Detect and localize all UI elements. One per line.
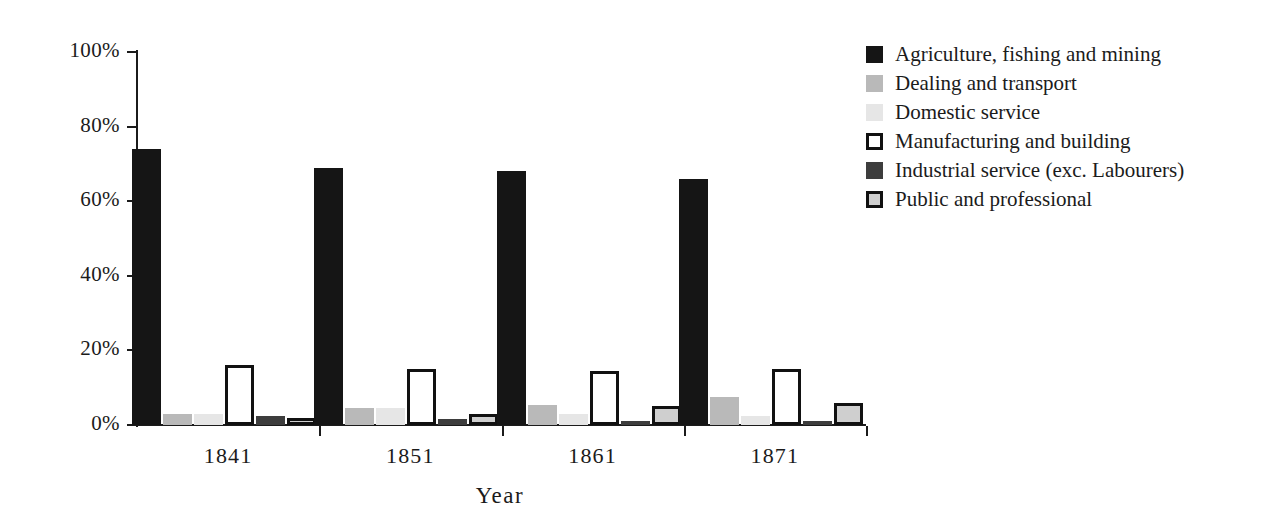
legend-swatch-icon [866, 75, 883, 92]
bar-dealing-transport [163, 414, 192, 425]
x-axis-label: 1841 [137, 443, 319, 469]
bar-domestic-service [559, 414, 588, 425]
x-tick-mark [684, 426, 686, 436]
legend-label: Agriculture, fishing and mining [895, 44, 1161, 65]
bar-dealing-transport [345, 408, 374, 425]
legend-label: Manufacturing and building [895, 131, 1131, 152]
y-tick-label: 40% [0, 264, 120, 285]
bar-domestic-service [194, 414, 223, 425]
legend-item: Domestic service [866, 98, 1256, 126]
bar-manufacturing-building [407, 369, 436, 425]
bar-public-professional [652, 406, 681, 425]
bar-agriculture [497, 171, 526, 425]
x-tick-mark [866, 426, 868, 436]
y-tick-label: 100% [0, 40, 120, 61]
legend-swatch-icon [866, 104, 883, 121]
bar-industrial-service [256, 416, 285, 425]
bar-group [497, 52, 681, 425]
y-tick-label: 20% [0, 338, 120, 359]
legend-item: Manufacturing and building [866, 127, 1256, 155]
bar-industrial-service [621, 421, 650, 425]
legend-swatch-icon [866, 191, 883, 208]
x-axis-label: 1851 [319, 443, 501, 469]
bar-public-professional [287, 418, 316, 425]
bar-group [132, 52, 316, 425]
legend-swatch-icon [866, 162, 883, 179]
bar-chart: 0%20%40%60%80%100% 1841185118611871 Year… [0, 0, 1262, 521]
bar-manufacturing-building [772, 369, 801, 425]
bar-group [314, 52, 498, 425]
bar-public-professional [469, 414, 498, 425]
legend-label: Public and professional [895, 189, 1092, 210]
bar-manufacturing-building [590, 371, 619, 425]
bar-manufacturing-building [225, 365, 254, 425]
x-tick-mark [502, 426, 504, 436]
legend-label: Dealing and transport [895, 73, 1077, 94]
x-axis-label: 1871 [684, 443, 866, 469]
chart-legend: Agriculture, fishing and miningDealing a… [866, 40, 1256, 214]
bar-agriculture [314, 168, 343, 425]
y-tick-label: 0% [0, 413, 120, 434]
y-tick-label: 80% [0, 115, 120, 136]
legend-item: Public and professional [866, 185, 1256, 213]
y-tick-label: 60% [0, 189, 120, 210]
bar-agriculture [679, 179, 708, 425]
bar-group [679, 52, 863, 425]
x-axis-label: 1861 [502, 443, 684, 469]
bar-public-professional [834, 403, 863, 425]
legend-item: Dealing and transport [866, 69, 1256, 97]
bar-dealing-transport [710, 397, 739, 425]
bar-industrial-service [803, 421, 832, 425]
legend-label: Domestic service [895, 102, 1040, 123]
x-tick-mark [319, 426, 321, 436]
bar-domestic-service [376, 408, 405, 425]
legend-item: Agriculture, fishing and mining [866, 40, 1256, 68]
bar-dealing-transport [528, 405, 557, 426]
bar-industrial-service [438, 419, 467, 425]
legend-item: Industrial service (exc. Labourers) [866, 156, 1256, 184]
legend-swatch-icon [866, 133, 883, 150]
x-axis-title: Year [0, 483, 1000, 509]
legend-swatch-icon [866, 46, 883, 63]
bar-domestic-service [741, 416, 770, 425]
bar-agriculture [132, 149, 161, 425]
legend-label: Industrial service (exc. Labourers) [895, 160, 1184, 181]
